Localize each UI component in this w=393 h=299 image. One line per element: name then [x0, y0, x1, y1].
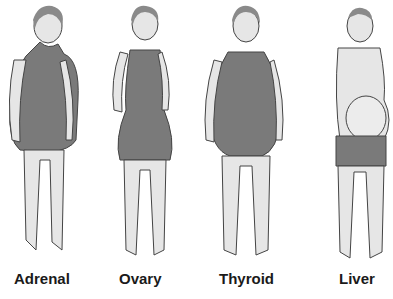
figure-ovary [100, 0, 190, 265]
figure-liver [310, 0, 393, 265]
figure-thyroid [200, 0, 290, 265]
figure-adrenal [0, 0, 90, 265]
label-liver: Liver [339, 270, 375, 287]
label-adrenal: Adrenal [14, 270, 70, 287]
label-thyroid: Thyroid [219, 270, 274, 287]
body-types-illustration: Adrenal Ovary Thyroid Liver [0, 0, 393, 299]
label-ovary: Ovary [119, 270, 162, 287]
